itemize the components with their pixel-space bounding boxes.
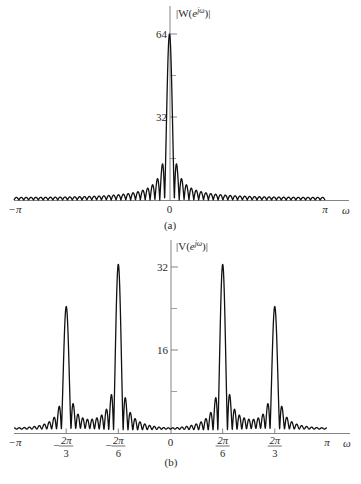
svg-text:2π: 2π	[113, 435, 124, 446]
magnitude-curve	[14, 34, 325, 200]
x-tick-label: −2π3	[53, 435, 73, 459]
x-tick-label: 0	[167, 203, 173, 215]
svg-text:2π: 2π	[61, 435, 72, 446]
y-tick-label: 16	[157, 344, 169, 356]
y-tick-label: 32	[156, 111, 167, 123]
svg-text:−: −	[53, 439, 59, 451]
x-tick-label: −π	[9, 203, 22, 215]
x-tick-label: 0	[168, 436, 174, 448]
svg-text:6: 6	[220, 448, 225, 459]
svg-text:2π: 2π	[217, 435, 228, 446]
subfigure-label: (b)	[165, 456, 178, 469]
x-tick-label: π	[324, 436, 330, 448]
x-tick-label: −2π6	[105, 435, 125, 459]
y-tick-label: 32	[157, 261, 168, 273]
plot-b: 3216 −π−2π3−2π602π62π3π |V(ejω)| ω (b)	[9, 239, 351, 469]
x-tick-label: π	[322, 203, 328, 215]
y-tick-label: 64	[156, 28, 168, 40]
x-axis-label: ω	[342, 204, 350, 216]
subfigure-label: (a)	[164, 219, 177, 232]
plot-a: 6432 −π0π |W(ejω)| ω (a)	[9, 6, 350, 232]
x-axis-label: ω	[343, 437, 351, 449]
y-axis-label: |W(ejω)|	[176, 6, 210, 20]
y-ticks: 3216	[157, 261, 178, 392]
x-ticks: −π0π	[9, 203, 329, 215]
y-axis-label: |V(ejω)|	[176, 239, 208, 253]
x-tick-label: 2π3	[268, 435, 282, 459]
svg-text:2π: 2π	[270, 435, 281, 446]
magnitude-curve	[14, 264, 327, 429]
svg-text:−: −	[105, 439, 111, 451]
figure: 6432 −π0π |W(ejω)| ω (a) 3216 −π−2π3−2π6…	[0, 0, 361, 484]
x-tick-label: 2π6	[216, 435, 230, 459]
svg-text:3: 3	[64, 448, 69, 459]
x-ticks: −π−2π3−2π602π62π3π	[9, 429, 331, 459]
x-tick-label: −π	[9, 436, 22, 448]
svg-text:3: 3	[272, 448, 277, 459]
svg-text:6: 6	[116, 448, 121, 459]
